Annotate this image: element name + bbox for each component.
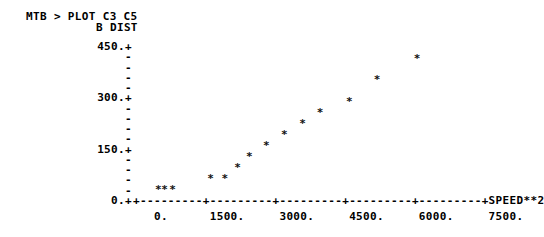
x-axis-tick-labels: 0. 1500. 3000. 4500. 6000. 7500. <box>133 212 523 222</box>
data-point-marker: * <box>281 128 288 139</box>
data-point-marker: * <box>299 118 306 129</box>
data-point-marker: * <box>346 96 353 107</box>
data-point-marker: * <box>414 52 421 63</box>
y-axis-title: B DIST <box>96 23 138 33</box>
data-point-marker: * <box>155 184 162 195</box>
x-axis: +---------+---------+---------+---------… <box>133 196 544 206</box>
data-point-marker: * <box>234 161 241 172</box>
data-point-marker: * <box>207 173 214 184</box>
data-point-marker: * <box>246 150 253 161</box>
data-point-marker: * <box>222 173 229 184</box>
data-point-marker: * <box>374 74 381 85</box>
data-point-marker: * <box>169 184 176 195</box>
data-point-marker: * <box>317 107 324 118</box>
data-point-marker: * <box>263 139 270 150</box>
y-axis-row: 0.+ <box>76 196 132 206</box>
data-point-marker: * <box>161 184 168 195</box>
